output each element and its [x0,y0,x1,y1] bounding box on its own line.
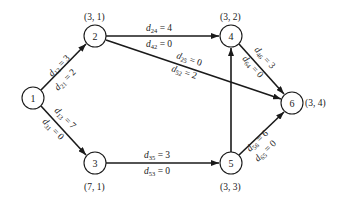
svg-text:4: 4 [229,31,234,42]
node-6-coord: (3, 4) [305,98,326,109]
edge-label-2-6-bottom: d52 = 2 [170,63,198,82]
network-diagram: d12 = 3 d21 = 2 d13 = 7 d31 = 0 d24 = 4 … [0,0,348,199]
svg-text:6: 6 [290,98,295,109]
node-5: 5 [220,152,242,174]
svg-text:3: 3 [93,158,98,169]
node-1: 1 [22,87,44,109]
node-4-coord: (3, 2) [220,12,241,23]
svg-text:d52 = 2: d52 = 2 [170,63,198,82]
node-6: 6 [281,92,303,114]
edge-label-2-6-top: d25 = 0 [175,50,203,69]
svg-text:d24 = 4: d24 = 4 [146,23,172,34]
node-5-coord: (3, 3) [220,182,241,193]
node-2-coord: (3, 1) [84,12,105,23]
edge-label-2-4-top: d24 = 4 [146,23,172,34]
edge-label-2-4-bottom: d42 = 0 [146,39,172,50]
node-3-coord: (7, 1) [84,182,105,193]
svg-text:d25 = 0: d25 = 0 [175,50,203,69]
svg-text:2: 2 [93,31,98,42]
node-4: 4 [220,25,242,47]
svg-text:d53 = 0: d53 = 0 [144,166,170,177]
node-3: 3 [84,152,106,174]
svg-text:d35 = 3: d35 = 3 [144,150,170,161]
edge-label-3-5-bottom: d53 = 0 [144,166,170,177]
svg-text:1: 1 [31,93,36,104]
svg-text:5: 5 [229,158,234,169]
edge-label-3-5-top: d35 = 3 [144,150,170,161]
node-2: 2 [84,25,106,47]
svg-text:d42 = 0: d42 = 0 [146,39,172,50]
